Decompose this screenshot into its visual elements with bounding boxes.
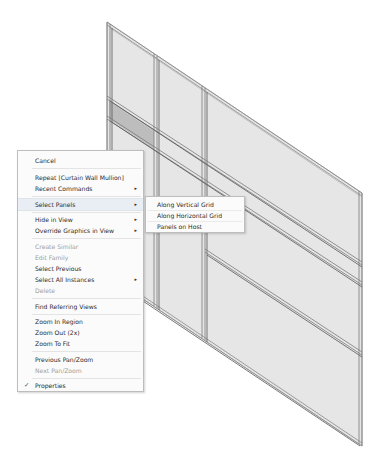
menu-item-zoom-in-region[interactable]: Zoom In Region [18,316,143,327]
menu-item-properties[interactable]: ✓ Properties [18,380,143,391]
menu-item-create-similar[interactable]: Create Similar [18,241,143,252]
submenu-item-panels-on-host[interactable]: Panels on Host [146,221,244,232]
menu-item-select-all-instances[interactable]: Select All Instances ▸ [18,274,143,285]
menu-item-label: Along Vertical Grid [157,199,214,210]
submenu-item-along-vertical-grid[interactable]: Along Vertical Grid [146,199,244,210]
checkmark-icon: ✓ [24,380,29,391]
menu-item-next-pan-zoom[interactable]: Next Pan/Zoom [18,365,143,376]
menu-item-cancel[interactable]: Cancel [18,155,143,166]
menu-item-label: Panels on Host [157,221,202,232]
menu-item-label: Create Similar [35,241,78,252]
menu-item-label: Zoom To Fit [35,338,70,349]
menu-item-delete[interactable]: Delete [18,285,143,296]
menu-separator [32,298,141,299]
menu-item-label: Repeat [Curtain Wall Mullion] [35,172,124,183]
menu-separator [32,238,141,239]
submenu-arrow-icon: ▸ [134,225,137,236]
menu-item-label: Hide in View [35,214,73,225]
menu-item-select-previous[interactable]: Select Previous [18,263,143,274]
menu-item-label: Select Panels [35,199,75,210]
curtain-wall-body[interactable] [107,22,362,446]
menu-item-label: Cancel [35,155,56,166]
menu-separator [32,168,141,169]
menu-item-label: Edit Family [35,252,68,263]
menu-item-label: Zoom Out (2x) [35,327,80,338]
menu-item-label: Recent Commands [35,183,93,194]
submenu-arrow-icon: ▸ [134,274,137,285]
menu-separator [32,351,141,352]
menu-item-previous-pan-zoom[interactable]: Previous Pan/Zoom [18,354,143,365]
menu-item-find-referring-views[interactable]: Find Referring Views [18,301,143,312]
menu-separator [32,212,141,213]
submenu-arrow-icon: ▸ [134,199,137,210]
menu-item-override-graphics[interactable]: Override Graphics in View ▸ [18,225,143,236]
menu-separator [32,378,141,379]
menu-item-zoom-out[interactable]: Zoom Out (2x) [18,327,143,338]
menu-item-recent-commands[interactable]: Recent Commands ▸ [18,183,143,194]
menu-item-label: Delete [35,285,55,296]
select-panels-submenu: Along Vertical Grid Along Horizontal Gri… [145,196,245,233]
menu-item-label: Select All Instances [35,274,94,285]
context-menu: Cancel Repeat [Curtain Wall Mullion] Rec… [17,150,144,392]
menu-item-zoom-to-fit[interactable]: Zoom To Fit [18,338,143,349]
menu-item-select-panels[interactable]: Select Panels ▸ [18,198,143,211]
menu-item-label: Zoom In Region [35,316,83,327]
menu-item-label: Select Previous [35,263,82,274]
menu-item-label: Find Referring Views [35,301,97,312]
menu-separator [32,314,141,315]
menu-item-edit-family[interactable]: Edit Family [18,252,143,263]
menu-item-label: Properties [35,380,66,391]
menu-separator [32,196,141,197]
menu-item-repeat[interactable]: Repeat [Curtain Wall Mullion] [18,172,143,183]
menu-item-label: Previous Pan/Zoom [35,354,93,365]
menu-item-hide-in-view[interactable]: Hide in View ▸ [18,214,143,225]
menu-item-label: Override Graphics in View [35,225,114,236]
menu-item-label: Next Pan/Zoom [35,365,82,376]
menu-item-label: Along Horizontal Grid [157,210,222,221]
submenu-arrow-icon: ▸ [134,183,137,194]
submenu-arrow-icon: ▸ [134,214,137,225]
submenu-item-along-horizontal-grid[interactable]: Along Horizontal Grid [146,210,244,221]
